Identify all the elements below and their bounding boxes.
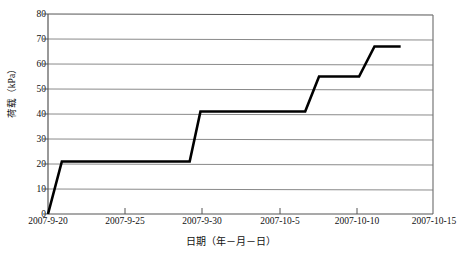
y-axis-ticks bbox=[43, 14, 48, 214]
load-vs-date-chart: 荷载（kPa） 80 70 60 50 40 30 20 10 0 bbox=[0, 0, 462, 256]
x-tick-label-5: 2007-10-15 bbox=[394, 216, 462, 227]
x-tick-label-2: 2007-9-30 bbox=[162, 216, 242, 227]
x-tick-label-1: 2007-9-25 bbox=[85, 216, 165, 227]
x-tick-label-3: 2007-10-5 bbox=[240, 216, 320, 227]
x-axis-ticks bbox=[125, 208, 357, 214]
x-tick-label-4: 2007-10-10 bbox=[317, 216, 397, 227]
gridlines bbox=[48, 14, 433, 190]
x-tick-label-0: 2007-9-20 bbox=[8, 216, 88, 227]
x-axis-title: 日期（年－月－日） bbox=[0, 233, 462, 248]
